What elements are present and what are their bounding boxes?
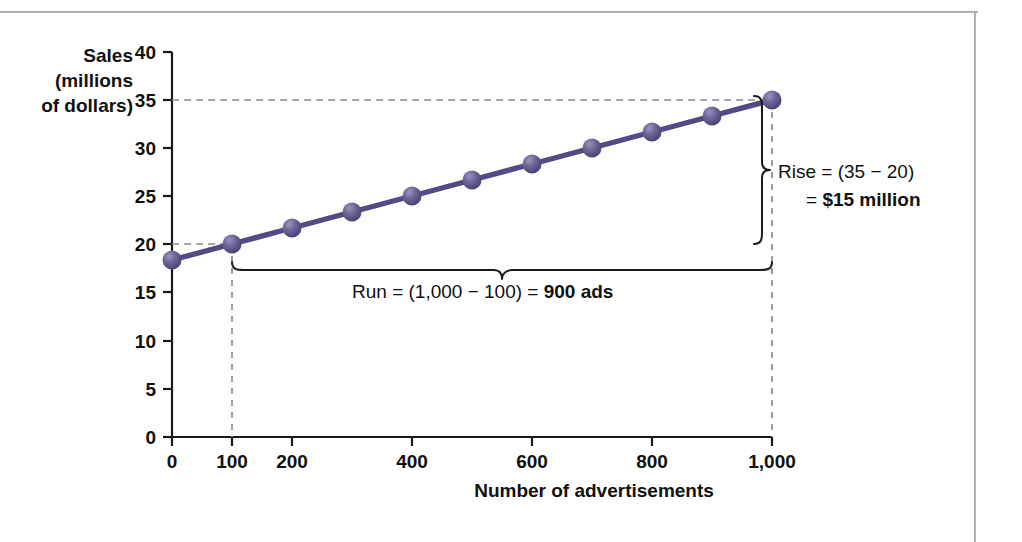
y-axis-label-line-3: of dollars) <box>41 95 133 116</box>
rise-annotation-line-2: = $15 million <box>806 189 921 210</box>
x-tick-label-100: 100 <box>216 451 248 472</box>
y-tick-label-20: 20 <box>135 234 156 255</box>
x-tick-label-200: 200 <box>276 451 308 472</box>
y-axis-ticks <box>163 52 172 437</box>
run-annotation-prefix: Run = (1,000 − 100) = <box>352 281 544 302</box>
x-axis-ticks <box>172 437 772 446</box>
y-tick-label-0: 0 <box>145 427 156 448</box>
run-annotation: Run = (1,000 − 100) = 900 ads <box>352 281 613 302</box>
y-tick-label-10: 10 <box>135 331 156 352</box>
figure-container: Sales (millions of dollars) 40 35 30 25 … <box>0 0 1022 542</box>
x-tick-label-800: 800 <box>636 451 668 472</box>
run-annotation-value: 900 ads <box>544 281 614 302</box>
x-axis-title: Number of advertisements <box>474 480 714 501</box>
y-tick-label-5: 5 <box>145 379 156 400</box>
rise-annotation-prefix: = <box>806 189 822 210</box>
y-tick-label-25: 25 <box>135 186 157 207</box>
data-point-markers <box>163 91 782 270</box>
rise-brace <box>754 96 770 244</box>
rise-annotation-line-1: Rise = (35 − 20) <box>778 161 914 182</box>
x-tick-label-400: 400 <box>396 451 428 472</box>
x-tick-label-600: 600 <box>516 451 548 472</box>
run-brace <box>232 262 772 279</box>
y-axis-label-line-2: (millions <box>55 70 133 91</box>
x-tick-label-1000: 1,000 <box>748 451 796 472</box>
chart-svg: Sales (millions of dollars) 40 35 30 25 … <box>0 0 1022 542</box>
rise-annotation-value: $15 million <box>822 189 920 210</box>
y-tick-label-40: 40 <box>135 42 156 63</box>
y-tick-label-30: 30 <box>135 138 156 159</box>
y-axis-label-line-1: Sales <box>83 45 133 66</box>
y-tick-label-35: 35 <box>135 90 157 111</box>
y-tick-label-15: 15 <box>135 282 157 303</box>
x-tick-label-0: 0 <box>167 451 178 472</box>
